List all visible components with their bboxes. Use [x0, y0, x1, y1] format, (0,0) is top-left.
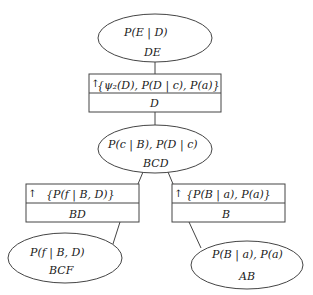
edge-BCD-BD: [138, 172, 143, 184]
clique-BCF-label: BCF: [48, 264, 74, 277]
clique-DE: P(E | D) DE: [98, 14, 212, 62]
edge-BCD-B: [168, 172, 173, 184]
edge-B-AB: [189, 222, 201, 248]
clique-BCF-potentials: P(f | B, D): [29, 246, 85, 260]
separator-D: ↑ {ψ₂(D), P(D | c), P(a)} D: [89, 74, 221, 112]
separator-BD: ↑ {P(f | B, D)} BD: [26, 184, 139, 222]
separator-BD-messages: {P(f | B, D)}: [46, 188, 115, 202]
clique-AB-label: AB: [238, 270, 255, 283]
clique-AB: P(B | a), P(a) AB: [191, 241, 303, 289]
clique-BCD: P(c | B), P(D | c) BCD: [98, 125, 212, 173]
clique-AB-potentials: P(B | a), P(a): [211, 248, 283, 262]
separator-D-label: D: [149, 97, 159, 110]
separator-B-label: B: [221, 208, 230, 221]
separator-B-messages: {P(B | a), P(a)}: [186, 188, 271, 202]
clique-BCD-label: BCD: [142, 157, 169, 170]
clique-BCD-potentials: P(c | B), P(D | c): [107, 138, 198, 152]
clique-DE-potentials: P(E | D): [123, 26, 168, 40]
separator-BD-label: BD: [68, 208, 86, 221]
junction-tree-diagram: P(E | D) DE ↑ {ψ₂(D), P(D | c), P(a)} D …: [0, 0, 313, 295]
clique-DE-label: DE: [143, 46, 161, 59]
clique-BCF: P(f | B, D) BCF: [8, 233, 122, 283]
edge-BD-BCF: [112, 222, 120, 247]
up-arrow-icon: ↑: [174, 188, 182, 199]
separator-D-messages: {ψ₂(D), P(D | c), P(a)}: [97, 79, 220, 93]
separator-B: ↑ {P(B | a), P(a)} B: [172, 184, 285, 222]
up-arrow-icon: ↑: [28, 188, 36, 199]
